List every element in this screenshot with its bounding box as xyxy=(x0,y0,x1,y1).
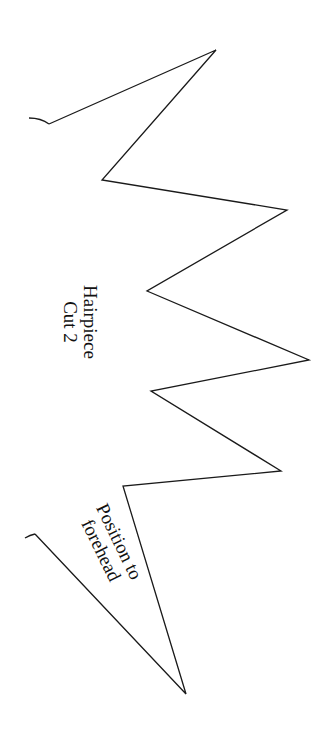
zigzag-outline xyxy=(35,50,309,694)
pattern-outline-drawing xyxy=(0,0,335,734)
top-hook-curve xyxy=(29,118,49,124)
pattern-title: Hairpiece xyxy=(80,272,100,372)
hairpiece-label: Hairpiece Cut 2 xyxy=(60,272,100,372)
bottom-hook-line xyxy=(25,534,35,538)
cut-instruction: Cut 2 xyxy=(60,272,80,372)
